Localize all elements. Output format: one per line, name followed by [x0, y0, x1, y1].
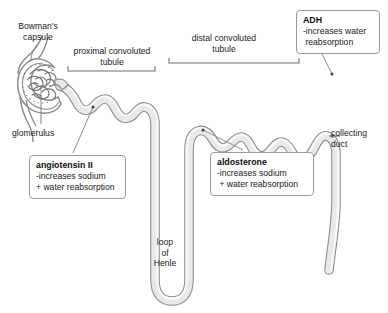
- callout-adh-title: ADH: [303, 15, 373, 26]
- callout-aldosterone-title: aldosterone: [217, 157, 307, 168]
- bracket-distal-convoluted-tubule: [169, 58, 299, 63]
- anchor-dot-angiotensin-ii: [92, 106, 95, 109]
- nephron-diagram-canvas: Bowman's capsule proximal convoluted tub…: [0, 0, 388, 313]
- label-collecting-duct: collecting duct: [331, 128, 367, 149]
- callout-adh: ADH -increases water reabsorption: [296, 10, 380, 54]
- callout-angiotensin-ii-title: angiotensin II: [36, 160, 119, 171]
- leader-adh: [322, 54, 332, 74]
- callout-adh-line-2: reabsorption: [303, 37, 373, 48]
- callout-aldosterone-line-2: + water reabsorption: [217, 179, 307, 190]
- label-proximal-convoluted-tubule: proximal convoluted tubule: [62, 46, 162, 67]
- label-bowmans-capsule: Bowman's capsule: [8, 21, 68, 42]
- anchor-dot-aldosterone: [202, 129, 205, 132]
- callout-aldosterone-line-1: -increases sodium: [217, 168, 307, 179]
- callout-angiotensin-ii: angiotensin II -increases sodium + water…: [29, 155, 126, 199]
- callout-aldosterone: aldosterone -increases sodium + water re…: [210, 152, 314, 196]
- callout-adh-line-1: -increases water: [303, 26, 373, 37]
- anchor-dot-adh: [331, 73, 334, 76]
- label-loop-of-henle: loop of Henle: [146, 237, 184, 269]
- callout-angiotensin-ii-line-2: + water reabsorption: [36, 182, 119, 193]
- label-glomerulus: glomerulus: [12, 128, 54, 139]
- label-distal-convoluted-tubule: distal convoluted tubule: [178, 33, 270, 54]
- callout-angiotensin-ii-line-1: -increases sodium: [36, 171, 119, 182]
